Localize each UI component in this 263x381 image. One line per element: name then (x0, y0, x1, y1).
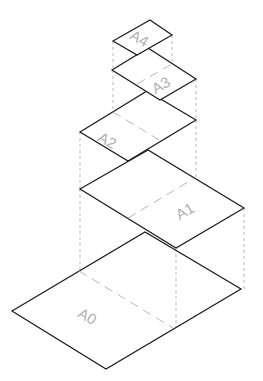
paper-sizes-diagram: A0 A1 A2 A3 A4 (0, 0, 263, 381)
sheet-a1: A1 (80, 150, 244, 248)
sheet-a4: A4 (113, 20, 172, 55)
sheet-a2: A2 (80, 91, 196, 161)
label-a0: A0 (75, 304, 99, 328)
sheet-a3: A3 (112, 48, 196, 100)
sheet-a0: A0 (12, 232, 241, 369)
